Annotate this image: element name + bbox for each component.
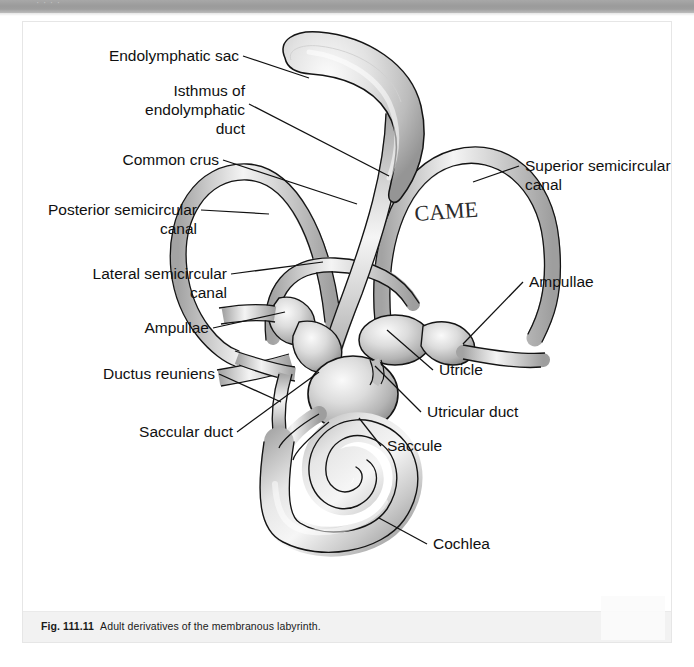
- leader-ampullae-right: [463, 282, 523, 344]
- toolbar-partial-text: · · · ·: [36, 0, 60, 8]
- figure-card: CAME: [22, 21, 672, 643]
- label-saccular-duct: Saccular duct: [139, 423, 234, 440]
- utricular-duct-shape: [375, 360, 378, 384]
- label-utricle: Utricle: [439, 361, 483, 378]
- figure-caption-band: Fig. 111.11 Adult derivatives of the mem…: [23, 611, 671, 642]
- ghost-watermark: [601, 596, 665, 640]
- handwritten-came-annotation: CAME: [414, 197, 479, 226]
- label-superior-canal-line1: Superior semicircular: [525, 157, 671, 174]
- label-utricular-duct: Utricular duct: [427, 403, 519, 420]
- anatomical-diagram: CAME: [23, 22, 671, 612]
- label-endolymphatic-sac: Endolymphatic sac: [109, 47, 239, 64]
- label-saccule: Saccule: [387, 437, 442, 454]
- leader-isthmus: [249, 104, 389, 176]
- label-isthmus-line1: Isthmus of: [174, 82, 246, 99]
- label-lateral-canal-line2: canal: [190, 284, 227, 301]
- figure-caption-body: Adult derivatives of the membranous laby…: [100, 620, 321, 632]
- label-isthmus-line3: duct: [216, 120, 246, 137]
- label-posterior-canal-line1: Posterior semicircular: [48, 201, 197, 218]
- label-posterior-canal-line2: canal: [160, 220, 197, 237]
- label-cochlea: Cochlea: [433, 535, 490, 552]
- toolbar-shadow: [0, 13, 694, 16]
- endolymphatic-sac-shape: [283, 32, 424, 203]
- browser-toolbar-strip[interactable]: · · · ·: [0, 0, 694, 13]
- label-superior-canal-line2: canal: [525, 176, 562, 193]
- figure-caption: Fig. 111.11 Adult derivatives of the mem…: [41, 620, 321, 632]
- label-lateral-canal-line1: Lateral semicircular: [93, 265, 227, 282]
- leader-posterior-canal: [201, 210, 269, 214]
- label-ductus-reuniens: Ductus reuniens: [103, 365, 215, 382]
- ductus-reuniens-shape: [278, 374, 285, 432]
- label-ampullae-left: Ampullae: [144, 319, 209, 336]
- label-isthmus-line2: endolymphatic: [145, 101, 245, 118]
- page-root: · · · ·: [0, 0, 694, 667]
- utricle-shape: [359, 315, 431, 365]
- figure-number: Fig. 111.11: [41, 620, 94, 632]
- label-common-crus: Common crus: [123, 151, 220, 168]
- label-ampullae-right: Ampullae: [529, 273, 594, 290]
